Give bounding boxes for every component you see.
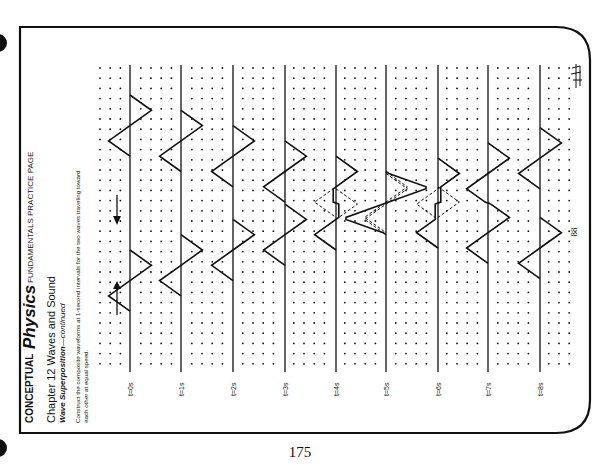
- grid-dot: [293, 98, 295, 100]
- grid-dot: [558, 261, 560, 263]
- grid-dot: [171, 88, 173, 90]
- grid-dot: [375, 200, 377, 202]
- grid-dot: [99, 322, 101, 324]
- grid-dot: [405, 322, 407, 324]
- grid-dot: [140, 149, 142, 151]
- grid-dot: [99, 261, 101, 263]
- grid-dot: [548, 190, 550, 192]
- grid-dot: [171, 210, 173, 212]
- header: CONCEPTUAL Physics FUNDAMENTALS PRACTICE…: [20, 152, 39, 423]
- grid-dot: [528, 230, 530, 232]
- grid-dot: [395, 251, 397, 253]
- grid-dot: [313, 220, 315, 222]
- grid-dot: [477, 77, 479, 79]
- grid-dot: [507, 332, 509, 334]
- grid-dot: [171, 179, 173, 181]
- grid-dot: [211, 98, 213, 100]
- grid-dot: [150, 302, 152, 304]
- grid-dot: [150, 322, 152, 324]
- grid-dot: [211, 241, 213, 243]
- grid-dot: [293, 118, 295, 120]
- grid-dot: [466, 77, 468, 79]
- grid-dot: [262, 169, 264, 171]
- grid-dot: [242, 343, 244, 345]
- grid-dot: [528, 353, 530, 355]
- grid-dot: [528, 149, 530, 151]
- grid-dot: [477, 353, 479, 355]
- grid-dot: [242, 118, 244, 120]
- grid-dot: [456, 251, 458, 253]
- panel-t0: t=0s: [109, 65, 152, 396]
- grid-dot: [456, 220, 458, 222]
- grid-dot: [446, 230, 448, 232]
- grid-dot: [558, 179, 560, 181]
- grid-dot: [150, 363, 152, 365]
- grid-dot: [99, 343, 101, 345]
- grid-dot: [395, 118, 397, 120]
- grid-dot: [222, 332, 224, 334]
- grid-dot: [273, 159, 275, 161]
- grid-dot: [150, 77, 152, 79]
- grid-dot: [150, 281, 152, 283]
- grid-dot: [446, 220, 448, 222]
- grid-dot: [120, 190, 122, 192]
- grid-dot: [375, 281, 377, 283]
- grid-dot: [395, 88, 397, 90]
- grid-dot: [262, 149, 264, 151]
- grid-dot: [364, 108, 366, 110]
- grid-dot: [415, 353, 417, 355]
- grid-dot: [446, 67, 448, 69]
- grid-dot: [140, 88, 142, 90]
- grid-dot: [140, 241, 142, 243]
- grid-dot: [242, 332, 244, 334]
- grid-dot: [262, 353, 264, 355]
- grid-dot: [466, 251, 468, 253]
- grid-dot: [466, 271, 468, 273]
- grid-dot: [375, 312, 377, 314]
- grid-dot: [477, 149, 479, 151]
- grid-dot: [497, 343, 499, 345]
- grid-dot: [456, 261, 458, 263]
- grid-dot: [375, 67, 377, 69]
- grid-dot: [548, 200, 550, 202]
- grid-dot: [120, 363, 122, 365]
- grid-dot: [273, 312, 275, 314]
- grid-dot: [558, 169, 560, 171]
- grid-dot: [507, 281, 509, 283]
- grid-dot: [517, 169, 519, 171]
- grid-dot: [405, 128, 407, 130]
- grid-dot: [252, 190, 254, 192]
- grid-dot: [109, 322, 111, 324]
- grid-dot: [477, 261, 479, 263]
- grid-dot: [313, 210, 315, 212]
- panel-label: t=5s: [383, 382, 390, 396]
- grid-dot: [242, 251, 244, 253]
- grid-dot: [395, 353, 397, 355]
- grid-dot: [405, 200, 407, 202]
- grid-dot: [293, 220, 295, 222]
- grid-dot: [262, 139, 264, 141]
- panel-t5: t=5s: [346, 65, 426, 396]
- grid-dot: [354, 139, 356, 141]
- grid-dot: [211, 179, 213, 181]
- grid-dot: [405, 292, 407, 294]
- grid-dot: [405, 67, 407, 69]
- grid-dot: [150, 343, 152, 345]
- grid-dot: [466, 343, 468, 345]
- grid-dot: [466, 281, 468, 283]
- grid-dot: [313, 251, 315, 253]
- grid-dot: [171, 118, 173, 120]
- grid-dot: [242, 292, 244, 294]
- grid-dot: [446, 88, 448, 90]
- grid-dot: [548, 353, 550, 355]
- grid-dot: [375, 271, 377, 273]
- grid-dot: [354, 302, 356, 304]
- grid-dot: [150, 149, 152, 151]
- grid-dot: [242, 353, 244, 355]
- grid-dot: [415, 190, 417, 192]
- grid-dot: [211, 108, 213, 110]
- grid-dot: [140, 332, 142, 334]
- grid-dot: [324, 200, 326, 202]
- grid-dot: [405, 88, 407, 90]
- grid-dot: [293, 281, 295, 283]
